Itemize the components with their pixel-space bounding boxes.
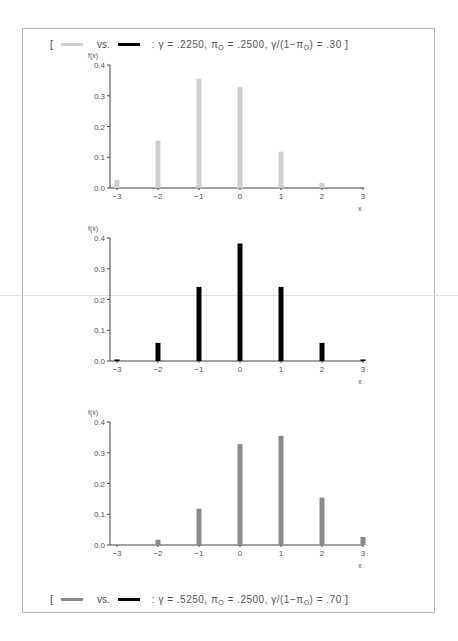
x-tick-label: −2 [153,192,163,201]
x-tick-label: 0 [238,549,243,558]
x-tick-label: −3 [112,365,122,374]
legend-top: [ vs. : γ = .2250, πO = .2500, γ/(1−πO) … [50,37,420,51]
x-tick-label: 3 [361,365,366,374]
x-tick-label: 0 [238,365,243,374]
y-axis-label: f(x) [88,52,98,60]
y-tick-label: 0.0 [94,357,106,366]
legend-vs: vs. [97,39,110,50]
bar [361,537,366,545]
y-tick-label: 0.3 [94,449,106,458]
x-tick-label: −1 [194,549,204,558]
y-tick-label: 0.2 [94,480,106,489]
x-tick-label: 1 [279,365,284,374]
bar [238,87,243,188]
bar-chart-top: f(x)0.00.10.20.30.4−3−2−10123x [0,50,458,220]
y-tick-label: 0.2 [94,296,106,305]
x-tick-label: −2 [153,549,163,558]
y-tick-label: 0.1 [94,153,106,162]
bar [197,509,202,545]
bar [156,141,161,188]
bar [279,152,284,188]
bar [197,79,202,188]
x-tick-label: 0 [238,192,243,201]
legend-swatch-black [118,598,140,601]
x-axis-label: x [358,562,362,569]
bar [115,180,120,188]
x-tick-label: −1 [194,192,204,201]
legend-params: : γ = .5250, πO = .2500, γ/(1−πO) = .70 … [152,593,349,606]
bar [320,343,325,361]
x-tick-label: 2 [320,549,325,558]
bar [320,498,325,545]
y-tick-label: 0.0 [94,541,106,550]
y-tick-label: 0.1 [94,326,106,335]
legend-open-bracket: [ [50,593,53,605]
bar [238,444,243,545]
x-tick-label: −2 [153,365,163,374]
bar [156,540,161,545]
bar [115,359,120,361]
x-tick-label: −3 [112,192,122,201]
figure-caption-cropped [95,633,425,641]
y-tick-label: 0.4 [94,61,106,70]
legend-swatch-black [118,43,140,46]
x-axis-label: x [358,378,362,385]
legend-swatch-light-gray [61,43,83,46]
bar [320,183,325,188]
legend-vs: vs. [97,594,110,605]
bar [279,436,284,545]
bar [156,343,161,361]
bar [197,287,202,361]
bar [279,287,284,361]
x-tick-label: 1 [279,192,284,201]
y-tick-label: 0.2 [94,123,106,132]
legend-params: : γ = .2250, πO = .2500, γ/(1−πO) = .30 … [152,38,349,51]
legend-swatch-medium-gray [61,598,83,601]
y-tick-label: 0.4 [94,234,106,243]
bar [238,244,243,361]
x-tick-label: −3 [112,549,122,558]
legend-bottom: [ vs. : γ = .5250, πO = .2500, γ/(1−πO) … [50,592,420,606]
legend-open-bracket: [ [50,38,53,50]
x-tick-label: 2 [320,365,325,374]
y-tick-label: 0.3 [94,92,106,101]
x-tick-label: −1 [194,365,204,374]
x-tick-label: 2 [320,192,325,201]
y-tick-label: 0.1 [94,510,106,519]
x-tick-label: 3 [361,192,366,201]
y-tick-label: 0.3 [94,265,106,274]
bar-chart-bottom: f(x)0.00.10.20.30.4−3−2−10123x [0,407,458,577]
y-axis-label: f(x) [88,409,98,417]
x-tick-label: 1 [279,549,284,558]
bar-chart-middle: f(x)0.00.10.20.30.4−3−2−10123x [0,223,458,393]
x-tick-label: 3 [361,549,366,558]
y-axis-label: f(x) [88,225,98,233]
y-tick-label: 0.4 [94,418,106,427]
y-tick-label: 0.0 [94,184,106,193]
x-axis-label: x [358,205,362,212]
bar [361,359,366,361]
